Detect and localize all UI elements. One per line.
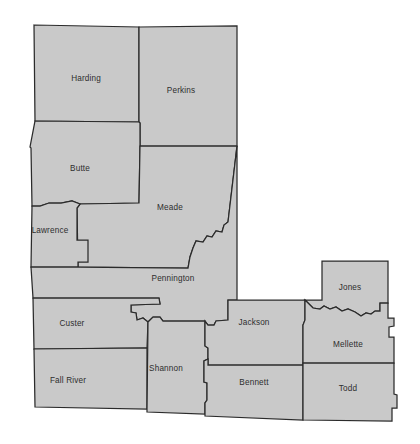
county-region-harding[interactable] <box>34 25 139 122</box>
county-region-butte[interactable] <box>30 121 140 206</box>
county-map-svg: HardingPerkinsButteMeadeLawrencePenningt… <box>0 0 420 444</box>
county-region-perkins[interactable] <box>139 26 237 146</box>
county-region-bennett[interactable] <box>204 359 303 420</box>
county-region-mellette[interactable] <box>303 300 394 363</box>
county-region-todd[interactable] <box>303 363 397 421</box>
county-shapes-group <box>30 25 397 421</box>
county-region-fall-river[interactable] <box>34 348 147 409</box>
county-region-shannon[interactable] <box>147 317 208 414</box>
county-map-container: HardingPerkinsButteMeadeLawrencePenningt… <box>0 0 420 444</box>
county-region-jones[interactable] <box>305 261 388 316</box>
